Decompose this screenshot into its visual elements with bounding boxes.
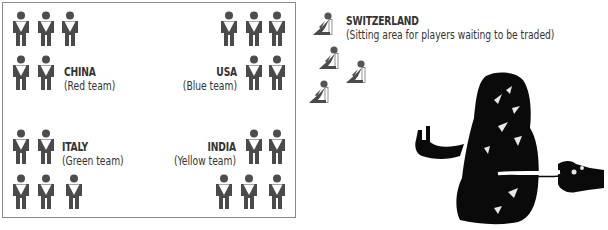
player-icon — [12, 129, 30, 165]
player-icon — [268, 55, 286, 91]
player-icon — [245, 55, 263, 91]
player-icon — [12, 55, 30, 91]
sitting-player-icon — [345, 60, 367, 84]
sitting-player-icon — [308, 80, 330, 104]
team-label-usa: USA (Blue team) — [160, 65, 237, 93]
team-color: (Blue team) — [172, 79, 237, 93]
player-icon — [61, 11, 79, 47]
team-label-italy: ITALY (Green team) — [62, 140, 135, 168]
player-icon — [268, 11, 286, 47]
country-name: ITALY — [62, 140, 124, 154]
country-name: CHINA — [64, 65, 115, 79]
sitting-area-description: (Sitting area for players waiting to be … — [346, 28, 567, 42]
team-label-india: INDIA (Yellow team) — [150, 140, 236, 168]
player-icon — [268, 129, 286, 165]
player-icon — [37, 55, 55, 91]
player-icon — [37, 174, 55, 210]
team-color: (Yellow team) — [163, 154, 236, 168]
team-label-china: CHINA (Red team) — [64, 65, 124, 93]
sitting-player-icon — [318, 46, 340, 70]
sitting-player-icon — [312, 12, 334, 36]
sitting-area-label: SWITZERLAND (Sitting area for players wa… — [346, 14, 606, 42]
player-icon — [12, 174, 30, 210]
player-icon — [12, 11, 30, 47]
country-name: INDIA — [163, 140, 236, 154]
player-icon — [37, 129, 55, 165]
team-color: (Red team) — [64, 79, 115, 93]
player-icon — [245, 129, 263, 165]
player-icon — [215, 174, 233, 210]
country-name: USA — [172, 65, 237, 79]
team-color: (Green team) — [62, 154, 124, 168]
player-icon — [245, 11, 263, 47]
country-name: SWITZERLAND — [346, 14, 567, 28]
person-holding-rope-illustration — [398, 68, 608, 228]
player-icon — [65, 174, 83, 210]
player-icon — [220, 11, 238, 47]
player-icon — [37, 11, 55, 47]
player-icon — [268, 174, 286, 210]
player-icon — [240, 174, 258, 210]
